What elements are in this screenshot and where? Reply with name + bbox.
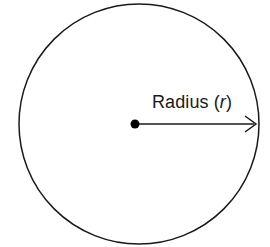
radius-label-suffix: ) (226, 92, 232, 112)
radius-label-prefix: Radius ( (152, 92, 220, 112)
diagram-svg: Radius (r) (0, 0, 270, 247)
circle-radius-diagram: Radius (r) (0, 0, 270, 247)
center-point-dot (131, 120, 140, 129)
radius-label: Radius (r) (152, 92, 232, 112)
